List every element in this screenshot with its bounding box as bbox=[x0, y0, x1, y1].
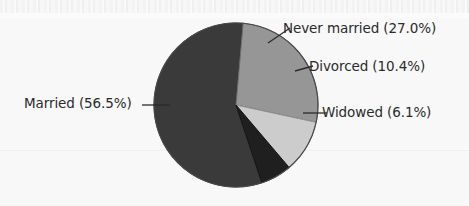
pie-label-divorced: Divorced (10.4%) bbox=[309, 60, 425, 74]
pie-label-never-married: Never married (27.0%) bbox=[283, 22, 436, 36]
pie-label-married: Married (56.5%) bbox=[24, 97, 132, 111]
pie-chart-figure: Never married (27.0%) Divorced (10.4%) W… bbox=[0, 0, 469, 206]
pie-label-widowed: Widowed (6.1%) bbox=[322, 106, 431, 120]
